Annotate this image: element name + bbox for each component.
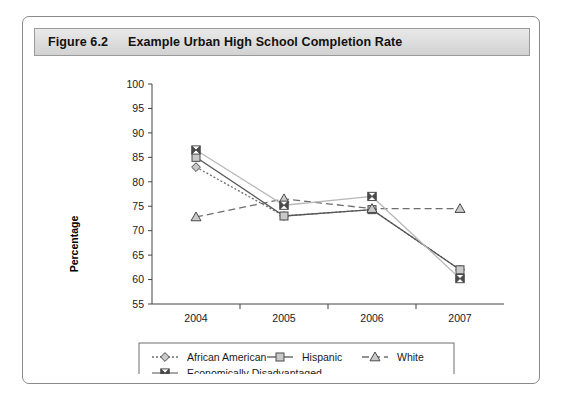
- data-point-marker: [192, 163, 201, 172]
- data-point-marker: [455, 204, 465, 213]
- x-tick-label: 2004: [184, 312, 208, 324]
- data-point-marker: [368, 192, 376, 200]
- series-line: [196, 199, 460, 217]
- chart-series-layer: [191, 146, 465, 283]
- x-axis-ticks: 2004200520062007: [184, 304, 472, 324]
- y-tick-label: 65: [132, 249, 144, 261]
- chart-legend: African AmericanHispanicWhiteEconomicall…: [139, 343, 454, 374]
- y-tick-label: 100: [126, 78, 144, 90]
- x-tick-label: 2006: [360, 312, 384, 324]
- y-tick-label: 70: [132, 224, 144, 236]
- legend-item-label: African American: [187, 351, 267, 363]
- y-tick-label: 95: [132, 102, 144, 114]
- x-tick-label: 2007: [448, 312, 472, 324]
- y-tick-label: 80: [132, 176, 144, 188]
- data-point-marker: [192, 146, 200, 154]
- data-point-marker: [456, 266, 464, 274]
- y-axis-ticks: 556065707580859095100: [126, 78, 152, 310]
- figure-title-bar: Figure 6.2 Example Urban High School Com…: [34, 28, 530, 56]
- legend-marker-icon: [161, 369, 169, 374]
- chart-series: [191, 194, 465, 221]
- y-tick-label: 75: [132, 200, 144, 212]
- legend-item-label: White: [397, 351, 424, 363]
- chart-series: [192, 153, 464, 273]
- y-tick-label: 60: [132, 273, 144, 285]
- data-point-marker: [280, 201, 288, 209]
- chart-plot-container: Percentage 556065707580859095100 2004200…: [34, 62, 530, 374]
- series-line: [196, 150, 460, 279]
- figure-container: Figure 6.2 Example Urban High School Com…: [22, 16, 540, 384]
- legend-marker-icon: [276, 353, 284, 361]
- legend-item[interactable]: Hispanic: [267, 351, 342, 363]
- y-tick-label: 85: [132, 151, 144, 163]
- completion-rate-line-chart: Percentage 556065707580859095100 2004200…: [34, 62, 530, 374]
- chart-series: [192, 163, 465, 274]
- y-tick-label: 90: [132, 127, 144, 139]
- chart-series: [192, 146, 464, 283]
- figure-number-label: Figure 6.2: [48, 35, 108, 49]
- y-axis-title-label: Percentage: [68, 216, 80, 273]
- legend-item-label: Economically Disadvantaged: [187, 367, 322, 374]
- data-point-marker: [456, 274, 464, 282]
- figure-title-label: Example Urban High School Completion Rat…: [128, 35, 402, 49]
- y-tick-label: 55: [132, 298, 144, 310]
- legend-item-label: Hispanic: [302, 351, 342, 363]
- series-line: [196, 167, 460, 270]
- x-tick-label: 2005: [272, 312, 296, 324]
- data-point-marker: [280, 212, 288, 220]
- y-axis-title: Percentage: [68, 216, 80, 273]
